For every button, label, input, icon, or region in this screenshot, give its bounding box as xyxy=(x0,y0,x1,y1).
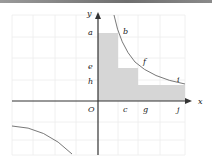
curve-label-i: i xyxy=(177,76,180,84)
y-axis-label: y xyxy=(87,10,92,18)
curve-label-b: b xyxy=(123,28,128,36)
y-axis-arrow xyxy=(95,12,101,19)
x-label-j: j xyxy=(177,106,179,114)
y-label-h: h xyxy=(88,78,93,86)
x-label-g: g xyxy=(143,106,148,114)
y-label-e: e xyxy=(88,63,93,71)
curve-label-f: f xyxy=(143,58,146,66)
x-label-c: c xyxy=(123,106,127,114)
origin-label: O xyxy=(88,106,95,114)
diagram-canvas xyxy=(0,0,212,165)
x-axis-label: x xyxy=(198,98,203,106)
y-label-a: a xyxy=(88,29,93,37)
x-axis-arrow xyxy=(185,98,192,104)
